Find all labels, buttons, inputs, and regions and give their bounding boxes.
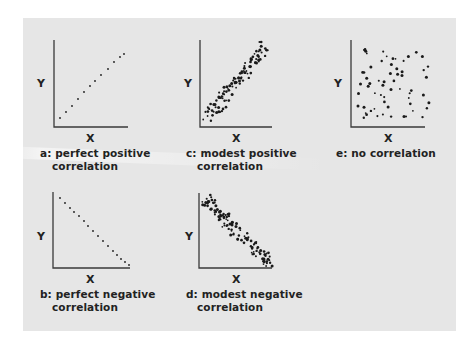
data-point	[255, 250, 257, 252]
data-point	[253, 251, 255, 253]
data-point	[264, 55, 266, 57]
data-point	[254, 61, 256, 63]
data-point	[399, 88, 401, 90]
data-point	[256, 50, 258, 52]
caption-b-line1: b: perfect negative	[40, 288, 155, 301]
scatterplot-c	[200, 40, 272, 127]
data-point	[222, 213, 224, 215]
data-point	[390, 88, 393, 91]
caption-a-line2: correlation	[52, 160, 118, 173]
data-point	[206, 202, 208, 204]
data-point	[374, 92, 376, 94]
data-point	[100, 74, 102, 76]
data-point	[228, 84, 231, 87]
data-point	[271, 265, 274, 268]
data-point	[123, 53, 125, 55]
data-point	[83, 91, 85, 93]
data-point	[392, 57, 395, 60]
data-point	[421, 55, 424, 58]
data-point	[92, 230, 94, 232]
x-axis-label-b: X	[86, 273, 94, 286]
data-point	[227, 99, 230, 102]
data-point	[112, 250, 114, 252]
data-point	[251, 247, 253, 249]
scatterplot-b	[53, 192, 130, 268]
data-point	[214, 213, 216, 215]
data-point	[223, 86, 226, 89]
data-point	[249, 66, 251, 68]
data-point	[250, 240, 253, 243]
data-point	[401, 74, 404, 77]
data-point	[216, 208, 219, 211]
data-point	[260, 41, 263, 44]
data-point	[59, 197, 61, 199]
data-point	[207, 115, 209, 117]
data-point	[357, 105, 360, 108]
data-point	[65, 111, 67, 113]
data-point	[231, 85, 233, 87]
data-point	[207, 110, 210, 113]
data-point	[124, 261, 126, 263]
data-point	[219, 111, 221, 113]
data-point	[73, 211, 75, 213]
data-point	[368, 82, 371, 85]
x-axis-label-d: X	[232, 273, 240, 286]
data-point	[252, 254, 254, 256]
data-point	[390, 115, 392, 117]
data-point	[213, 111, 215, 113]
data-point	[211, 114, 214, 117]
data-point	[265, 265, 267, 267]
data-point	[221, 226, 223, 228]
data-point	[228, 89, 231, 92]
data-point	[243, 70, 245, 72]
data-point	[64, 202, 66, 204]
data-point	[209, 194, 212, 197]
y-axis-label-a: Y	[37, 77, 45, 90]
data-point	[240, 239, 243, 242]
data-point	[408, 97, 410, 99]
data-point	[256, 248, 258, 250]
data-point	[263, 250, 266, 253]
data-point	[365, 77, 368, 80]
data-point	[206, 204, 209, 207]
data-point	[87, 225, 89, 227]
x-axis-label-c: X	[232, 132, 240, 145]
data-point	[369, 66, 372, 69]
data-point	[223, 224, 225, 226]
scatterplot-d	[199, 193, 274, 268]
axes-d	[199, 193, 272, 268]
data-point	[230, 82, 233, 85]
data-point	[233, 233, 235, 235]
data-point	[427, 101, 430, 104]
data-point	[401, 70, 404, 73]
data-point	[107, 68, 109, 70]
data-point	[266, 262, 268, 264]
data-point	[258, 61, 260, 63]
data-point	[412, 110, 414, 112]
data-point	[128, 264, 130, 266]
data-point	[226, 225, 228, 227]
data-point	[381, 84, 384, 87]
data-point	[246, 232, 248, 234]
data-point	[265, 49, 267, 51]
data-point	[396, 73, 399, 76]
data-point	[215, 99, 217, 101]
data-point	[363, 106, 366, 109]
caption-d-line1: d: modest negative	[186, 288, 303, 301]
data-point	[230, 228, 232, 230]
data-point	[78, 215, 80, 217]
data-point	[201, 203, 204, 206]
data-point	[218, 92, 220, 94]
data-point	[59, 117, 61, 119]
data-point	[403, 115, 406, 118]
data-point	[370, 110, 372, 112]
data-point	[113, 61, 115, 63]
data-point	[233, 77, 235, 79]
data-point	[269, 262, 271, 264]
data-point	[363, 49, 365, 51]
caption-c-line1: c: modest positive	[186, 147, 297, 160]
data-point	[210, 120, 212, 122]
data-point	[248, 77, 250, 79]
caption-a-line1: a: perfect positive	[40, 147, 150, 160]
data-point	[249, 72, 252, 75]
